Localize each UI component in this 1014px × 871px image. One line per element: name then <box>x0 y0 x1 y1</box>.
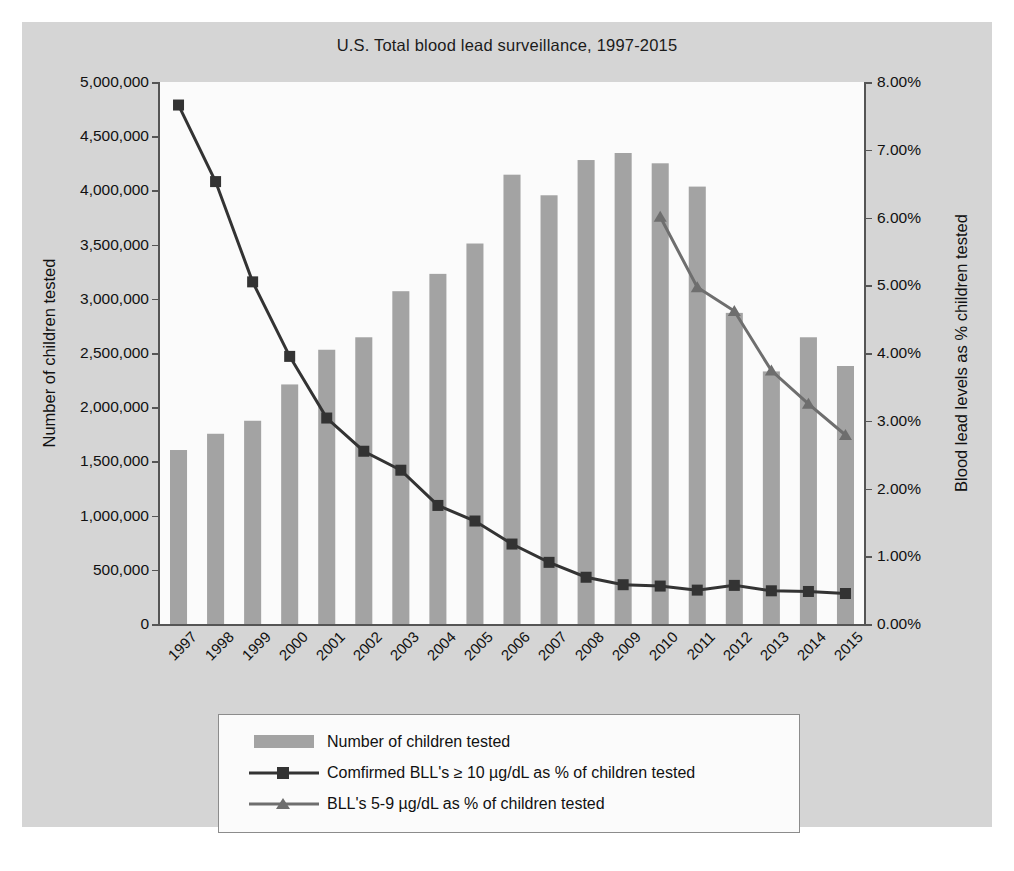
y-axis-right-tick: 8.00% <box>864 73 921 91</box>
bar <box>578 160 595 624</box>
bar <box>726 313 743 624</box>
square-marker-icon <box>840 588 851 599</box>
triangle-marker-icon <box>247 796 321 812</box>
x-axis-tick: 2006 <box>497 628 533 664</box>
legend-item-bars: Number of children tested <box>219 726 799 757</box>
bar <box>652 163 669 624</box>
line-series <box>660 217 845 435</box>
square-marker-icon <box>655 581 666 592</box>
bar <box>244 421 261 624</box>
square-marker-icon <box>469 516 480 527</box>
square-marker-icon <box>729 580 740 591</box>
square-marker-icon <box>507 539 518 550</box>
legend-swatch-square-line <box>241 762 327 784</box>
legend-item-bll59: BLL's 5-9 µg/dL as % of children tested <box>219 788 799 819</box>
x-axis-tick: 2003 <box>386 628 422 664</box>
y-axis-left-tick: 3,000,000 <box>80 290 160 308</box>
y-axis-right-tick: 7.00% <box>864 141 921 159</box>
x-axis-tick: 2002 <box>349 628 385 664</box>
y-axis-left-tick: 0 <box>140 615 160 633</box>
y-axis-right-title: Blood lead levels as % children tested <box>952 82 976 624</box>
x-axis-tick: 2000 <box>275 628 311 664</box>
bar <box>800 337 817 624</box>
legend-item-confirmed: Comfirmed BLL's ≥ 10 µg/dL as % of child… <box>219 757 799 788</box>
y-axis-right-tick: 4.00% <box>864 344 921 362</box>
bar <box>429 274 446 624</box>
x-axis-tick: 2015 <box>831 628 867 664</box>
bar <box>503 175 520 624</box>
legend-label-bll59: BLL's 5-9 µg/dL as % of children tested <box>327 795 605 813</box>
square-marker-icon <box>803 586 814 597</box>
x-axis-tick: 2013 <box>757 628 793 664</box>
x-axis-tick: 2014 <box>794 628 830 664</box>
bar <box>170 450 187 624</box>
y-axis-left-tick: 500,000 <box>93 561 160 579</box>
x-axis-tick: 1999 <box>238 628 274 664</box>
y-axis-right-tick: 0.00% <box>864 615 921 633</box>
y-axis-right-tick: 6.00% <box>864 209 921 227</box>
chart-figure: U.S. Total blood lead surveillance, 1997… <box>22 22 992 827</box>
y-axis-right-tick: 5.00% <box>864 276 921 294</box>
square-marker-icon <box>432 500 443 511</box>
x-axis-tick: 2005 <box>460 628 496 664</box>
bar <box>207 434 224 624</box>
x-axis-tick: 2009 <box>609 628 645 664</box>
y-axis-left-tick: 5,000,000 <box>80 73 160 91</box>
x-axis-tick: 2012 <box>720 628 756 664</box>
square-marker-icon <box>210 176 221 187</box>
triangle-marker-icon <box>765 365 778 376</box>
y-axis-right-tick: 1.00% <box>864 547 921 565</box>
y-axis-right-tick: 2.00% <box>864 480 921 498</box>
bar <box>837 366 854 624</box>
x-axis-tick: 1998 <box>201 628 237 664</box>
square-marker-icon <box>358 446 369 457</box>
square-marker-icon <box>284 351 295 362</box>
square-marker-icon <box>395 465 406 476</box>
legend-label-bars: Number of children tested <box>327 733 510 751</box>
square-marker-icon <box>766 585 777 596</box>
square-marker-icon <box>618 579 629 590</box>
square-marker-icon <box>581 572 592 583</box>
square-marker-icon <box>173 100 184 111</box>
bar <box>281 384 298 624</box>
square-marker-icon <box>544 557 555 568</box>
x-axis-tick: 2001 <box>312 628 348 664</box>
bar <box>615 153 632 624</box>
plot-area: 0500,0001,000,0001,500,0002,000,0002,500… <box>158 82 864 626</box>
square-marker-icon <box>247 765 321 781</box>
chart-canvas <box>160 82 864 624</box>
y-axis-left-tick: 2,500,000 <box>80 344 160 362</box>
chart-title: U.S. Total blood lead surveillance, 1997… <box>22 36 992 55</box>
bar <box>689 187 706 624</box>
y-axis-left-tick: 3,500,000 <box>80 236 160 254</box>
y-axis-left-tick: 1,000,000 <box>80 507 160 525</box>
square-marker-icon <box>321 413 332 424</box>
bar <box>355 337 372 624</box>
y-axis-right-tick: 3.00% <box>864 412 921 430</box>
legend-swatch-triangle-line <box>241 793 327 815</box>
y-axis-left-tick: 4,000,000 <box>80 181 160 199</box>
chart-legend: Number of children tested Comfirmed BLL'… <box>218 714 800 833</box>
x-axis-tick: 2007 <box>534 628 570 664</box>
x-axis-tick: 2010 <box>646 628 682 664</box>
y-axis-left-tick: 1,500,000 <box>80 452 160 470</box>
legend-label-confirmed: Comfirmed BLL's ≥ 10 µg/dL as % of child… <box>327 764 695 782</box>
bar <box>392 291 409 624</box>
x-axis-tick: 2004 <box>423 628 459 664</box>
x-axis-tick: 2008 <box>571 628 607 664</box>
square-marker-icon <box>692 585 703 596</box>
y-axis-left-title: Number of children tested <box>40 82 64 624</box>
legend-swatch-bar <box>241 731 327 753</box>
bar <box>318 350 335 624</box>
x-axis-tick: 2011 <box>683 628 718 663</box>
bar <box>466 244 483 624</box>
y-axis-left-tick: 4,500,000 <box>80 127 160 145</box>
square-marker-icon <box>247 276 258 287</box>
x-axis-tick: 1997 <box>164 628 200 664</box>
y-axis-left-tick: 2,000,000 <box>80 398 160 416</box>
